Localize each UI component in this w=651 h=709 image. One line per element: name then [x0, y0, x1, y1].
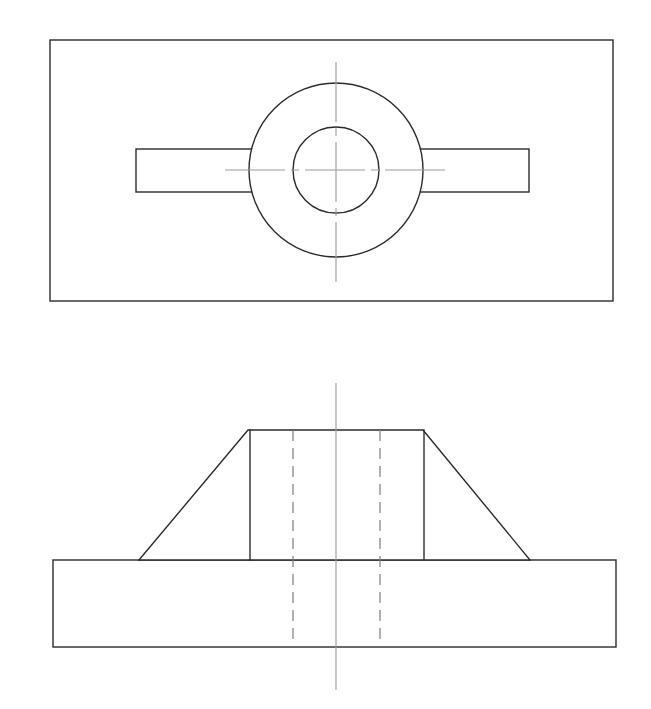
- front-view-base-rect: [53, 560, 616, 647]
- front-view-boss-outline: [139, 430, 530, 560]
- drawing-sheet: [0, 0, 651, 709]
- front-view-group: [53, 383, 616, 690]
- technical-drawing-canvas: [0, 0, 651, 709]
- top-view-group: [50, 40, 613, 301]
